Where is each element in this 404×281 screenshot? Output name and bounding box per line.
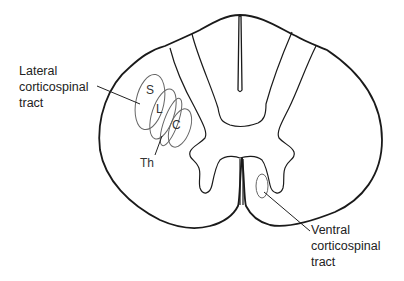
lateral-tract-label-line2: corticospinal bbox=[19, 80, 88, 94]
lateral-tract-label-line1: Lateral bbox=[19, 64, 57, 78]
lateral-tract-label-line3: tract bbox=[19, 96, 44, 110]
spinal-cord-diagram: S L C Th Lateral corticospinal tract Ven… bbox=[0, 0, 404, 281]
cervical-label: C bbox=[172, 118, 181, 132]
thoracic-label: Th bbox=[140, 156, 154, 170]
ventral-tract-label-line3: tract bbox=[311, 255, 336, 269]
dorsal-median-septum bbox=[238, 16, 242, 92]
cord-outline bbox=[99, 15, 382, 228]
ventral-tract-label-line1: Ventral bbox=[311, 223, 350, 237]
ventral-tract-label-line2: corticospinal bbox=[311, 239, 380, 253]
sacral-label: S bbox=[146, 83, 154, 97]
lateral-tract-leader bbox=[97, 86, 140, 104]
lumbar-label: L bbox=[156, 102, 163, 116]
